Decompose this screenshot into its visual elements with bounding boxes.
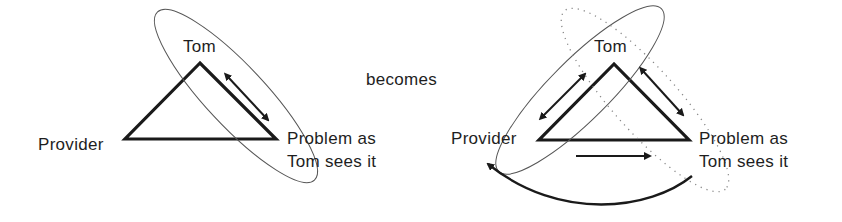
left-node-provider: Provider — [38, 134, 104, 156]
right-diagram — [477, 0, 749, 211]
right-node-provider: Provider — [451, 128, 517, 150]
diagram-graphics — [0, 0, 842, 222]
right-node-tom: Tom — [594, 36, 627, 58]
right-node-problem-line1: Problem as — [699, 128, 788, 150]
right-provider-tom-double-arrow — [543, 74, 585, 116]
right-problem-provider-curved-arrow — [488, 164, 692, 205]
left-node-tom: Tom — [183, 36, 216, 58]
diagram-canvas: Tom Provider Problem as Tom sees it beco… — [0, 0, 842, 222]
right-tom-problem-double-arrow — [643, 71, 683, 115]
left-node-problem-line2: Tom sees it — [287, 151, 376, 173]
becomes-label: becomes — [366, 69, 437, 91]
left-node-problem-line1: Problem as — [287, 128, 376, 150]
right-node-problem-line2: Tom sees it — [699, 151, 788, 173]
